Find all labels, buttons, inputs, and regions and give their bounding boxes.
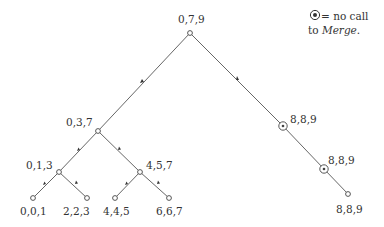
edge-n013-n223 (59, 172, 87, 198)
node-n445 (113, 196, 118, 201)
edge-n037-n457 (98, 131, 140, 172)
arrow-icon (43, 182, 46, 186)
label-n001: 0,0,1 (20, 206, 47, 217)
label-n457: 4,5,7 (146, 160, 173, 171)
edge-n889b-n889c (324, 169, 348, 194)
label-n889b: 8,8,9 (328, 155, 355, 166)
node-n889b (320, 165, 328, 173)
label-n037: 0,3,7 (66, 117, 93, 128)
arrow-icon (236, 76, 239, 80)
edge-n889a-n889b (283, 126, 324, 169)
legend-line-1: = no call (308, 9, 368, 23)
node-n223 (85, 196, 90, 201)
edge-n457-n445 (115, 172, 140, 198)
legend: = no call to Merge. (308, 9, 368, 37)
node-n457 (138, 170, 143, 175)
label-n013: 0,1,3 (26, 160, 53, 171)
node-n001 (31, 196, 36, 201)
edge-n013-n001 (33, 172, 59, 198)
node-n037 (96, 129, 101, 134)
legend-prefix: to (308, 24, 322, 36)
node-root (188, 31, 193, 36)
label-n223: 2,2,3 (63, 206, 90, 217)
label-n445: 4,4,5 (103, 206, 130, 217)
node-n013 (57, 170, 62, 175)
edge-n037-n013 (59, 131, 98, 172)
label-root: 0,7,9 (178, 14, 205, 25)
label-n889c: 8,8,9 (336, 204, 363, 215)
legend-suffix: . (357, 24, 360, 36)
node-n889c (346, 192, 351, 197)
node-n889a (279, 122, 287, 130)
legend-text: = no call (321, 10, 368, 22)
edge-n457-n667 (140, 172, 169, 198)
node-n667 (167, 196, 172, 201)
arrow-icon (157, 181, 160, 185)
legend-line-2: to Merge. (308, 23, 368, 37)
label-n667: 6,6,7 (156, 206, 183, 217)
arrow-icon (118, 147, 121, 151)
label-n889a: 8,8,9 (290, 114, 317, 125)
legend-merge-word: Merge (322, 24, 357, 36)
arrow-icon (75, 181, 78, 185)
